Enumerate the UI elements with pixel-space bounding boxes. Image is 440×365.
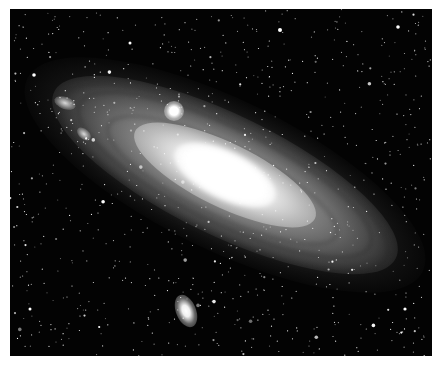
star-field <box>10 9 432 356</box>
galaxy-photo <box>10 9 432 356</box>
